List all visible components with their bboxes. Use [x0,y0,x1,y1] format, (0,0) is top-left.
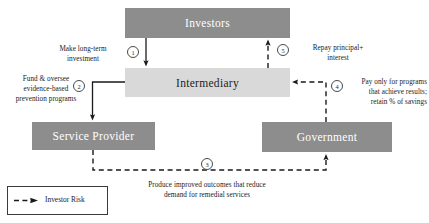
step-4-number: 4 [335,83,338,90]
step-1-badge: 1 [127,46,139,58]
step-5-caption: Repay principal+ interest [293,43,383,63]
step-5-number: 5 [281,47,284,54]
step-4-caption-line-3: retain % of savings [341,97,427,107]
step-3-caption-line-2: demand for remedial services [112,190,302,200]
step-2-badge: 2 [73,80,85,92]
step-2-caption-line-3: prevention programs [3,94,89,104]
step-5-caption-line-2: interest [293,53,383,63]
step-1-number: 1 [131,49,134,56]
connector-step-4 [295,82,326,122]
step-1-caption: Make long-term investment [42,44,124,64]
step-2-number: 2 [77,83,80,90]
node-government[interactable]: Government [262,122,392,152]
legend-label: Investor Risk [45,195,85,204]
investor-risk-arrow-icon [14,196,40,205]
step-3-caption: Produce improved outcomes that reduce de… [112,180,302,200]
node-government-label: Government [297,131,357,143]
node-service-provider-label: Service Provider [53,130,135,142]
node-investors[interactable]: Investors [125,8,290,38]
node-investors-label: Investors [185,17,230,29]
step-1-caption-line-2: investment [42,54,124,64]
step-4-caption: Pay only for programs that achieve resul… [341,77,427,108]
step-1-caption-line-1: Make long-term [42,44,124,54]
node-intermediary-label: Intermediary [176,77,239,89]
flow-diagram: Investors Intermediary Service Provider … [0,0,429,223]
node-service-provider[interactable]: Service Provider [32,122,155,150]
step-3-badge: 3 [201,158,213,170]
step-5-caption-line-1: Repay principal+ [293,43,383,53]
step-4-caption-line-2: that achieve results; [341,87,427,97]
step-3-number: 3 [205,161,208,168]
step-5-badge: 5 [277,44,289,56]
connector-step-2 [93,82,126,118]
node-intermediary[interactable]: Intermediary [125,68,290,97]
step-4-caption-line-1: Pay only for programs [341,77,427,87]
step-3-caption-line-1: Produce improved outcomes that reduce [112,180,302,190]
